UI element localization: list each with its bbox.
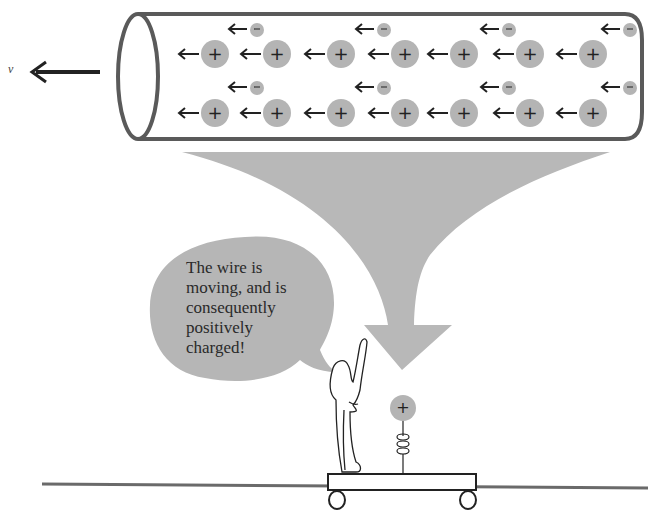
motion-arrow-icon xyxy=(229,24,247,34)
motion-arrow-icon xyxy=(369,49,389,59)
svg-text:+: + xyxy=(585,102,600,123)
negative-charge xyxy=(502,23,516,37)
motion-arrow-icon xyxy=(481,24,499,34)
positive-charge: + xyxy=(263,99,291,127)
motion-arrow-icon xyxy=(369,108,389,118)
positive-charge: + xyxy=(263,40,291,68)
negative-charge xyxy=(377,23,391,37)
motion-arrow-icon xyxy=(557,108,577,118)
motion-arrow-icon xyxy=(305,108,325,118)
svg-text:+: + xyxy=(269,102,284,123)
svg-text:+: + xyxy=(522,43,537,64)
motion-arrow-icon xyxy=(428,108,448,118)
cart xyxy=(328,474,476,509)
positive-charge: + xyxy=(201,40,229,68)
svg-text:+: + xyxy=(333,102,348,123)
motion-arrow-icon xyxy=(305,49,325,59)
negative-charge xyxy=(623,23,637,37)
motion-arrow-icon xyxy=(494,108,514,118)
motion-arrow-icon xyxy=(179,49,199,59)
test-charge-on-spring: + xyxy=(390,395,416,474)
negative-charge xyxy=(250,81,264,95)
cart-wheel-left xyxy=(329,491,345,509)
person-figure xyxy=(330,339,367,472)
velocity-arrow xyxy=(32,62,100,82)
negative-charge xyxy=(623,81,637,95)
bubble-line: charged! xyxy=(186,338,326,358)
wire-charges: ++++++++++++++ xyxy=(179,23,637,127)
motion-arrow-icon xyxy=(481,82,499,92)
positive-charge: + xyxy=(516,40,544,68)
positive-charge: + xyxy=(391,40,419,68)
positive-charge: + xyxy=(579,99,607,127)
bubble-line: moving, and is xyxy=(186,278,326,298)
motion-arrow-icon xyxy=(557,49,577,59)
bubble-line: positively xyxy=(186,318,326,338)
motion-arrow-icon xyxy=(356,24,374,34)
positive-charge: + xyxy=(327,99,355,127)
motion-arrow-icon xyxy=(428,49,448,59)
svg-text:+: + xyxy=(333,43,348,64)
svg-text:+: + xyxy=(207,102,222,123)
motion-arrow-icon xyxy=(356,82,374,92)
motion-arrow-icon xyxy=(602,24,620,34)
bubble-line: The wire is xyxy=(186,258,326,278)
positive-charge: + xyxy=(327,40,355,68)
positive-charge: + xyxy=(450,99,478,127)
negative-charge xyxy=(250,23,264,37)
wire-end-ellipse xyxy=(118,14,158,139)
positive-charge: + xyxy=(201,99,229,127)
motion-arrow-icon xyxy=(602,82,620,92)
motion-arrow-icon xyxy=(179,108,199,118)
svg-text:+: + xyxy=(396,398,409,417)
cart-wheel-right xyxy=(460,491,476,509)
svg-text:+: + xyxy=(269,43,284,64)
svg-text:+: + xyxy=(397,43,412,64)
negative-charge xyxy=(502,81,516,95)
motion-arrow-icon xyxy=(241,49,261,59)
svg-text:+: + xyxy=(207,43,222,64)
bubble-line: consequently xyxy=(186,298,326,318)
positive-charge: + xyxy=(579,40,607,68)
positive-charge: + xyxy=(516,99,544,127)
svg-text:+: + xyxy=(397,102,412,123)
svg-text:+: + xyxy=(456,102,471,123)
negative-charge xyxy=(377,81,391,95)
velocity-label: v xyxy=(8,62,13,77)
svg-text:+: + xyxy=(522,102,537,123)
motion-arrow-icon xyxy=(229,82,247,92)
svg-text:+: + xyxy=(456,43,471,64)
diagram-canvas: ++++++++++++++ + xyxy=(0,0,664,525)
positive-charge: + xyxy=(450,40,478,68)
speech-bubble-text: The wire is moving, and is consequently … xyxy=(186,258,326,358)
motion-arrow-icon xyxy=(494,49,514,59)
svg-text:+: + xyxy=(585,43,600,64)
positive-charge: + xyxy=(391,99,419,127)
motion-arrow-icon xyxy=(241,108,261,118)
